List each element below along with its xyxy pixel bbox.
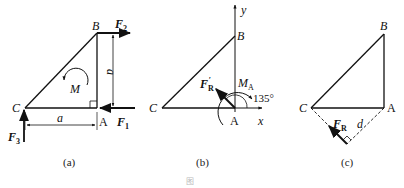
moment-ma-label: MA (237, 76, 254, 92)
caption-b: (b) (196, 156, 209, 169)
figure-a: B C A M a a F2 F1 F3 (a) (7, 17, 135, 169)
x-axis-label: x (257, 114, 264, 128)
point-c-label: C (149, 101, 158, 115)
point-b-label: B (237, 29, 245, 43)
figure-caption: 图 (186, 177, 194, 186)
angle-label: 135° (253, 92, 274, 104)
distance-d-label: d (357, 117, 364, 131)
point-a-label: A (230, 114, 239, 128)
force-f2-label: F2 (114, 17, 127, 33)
y-axis-label: y (240, 3, 247, 17)
force-f1-label: F1 (116, 115, 129, 131)
force-f3-label: F3 (7, 130, 20, 146)
point-a-label: A (387, 101, 396, 115)
edge-cb (25, 33, 97, 108)
dim-horizontal-label: a (57, 111, 63, 125)
figure-b: y B C A x FR′ MA 135° (b) (149, 3, 274, 169)
figure-c: B C A FR d (c) (299, 19, 396, 169)
point-b-label: B (380, 19, 388, 33)
point-a-label: A (99, 115, 108, 129)
point-c-label: C (12, 101, 21, 115)
dim-vertical-label: a (104, 69, 118, 75)
resultant-force-label: FR (332, 117, 347, 133)
resultant-force-label: FR′ (199, 76, 214, 93)
point-c-label: C (299, 101, 308, 115)
right-angle-mark (90, 101, 97, 108)
distance-d-line (347, 108, 384, 144)
caption-a: (a) (63, 156, 76, 169)
moment-m-label: M (69, 82, 81, 96)
caption-c: (c) (341, 156, 354, 169)
point-b-label: B (92, 19, 100, 33)
